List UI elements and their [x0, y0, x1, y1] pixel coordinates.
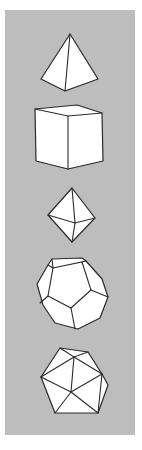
dodecahedron-icon [37, 258, 108, 329]
octahedron-icon [48, 188, 95, 242]
platonic-solids-figure [0, 0, 142, 450]
icosahedron-icon [41, 348, 108, 413]
cube-icon [35, 105, 103, 169]
tetrahedron-icon [41, 34, 98, 91]
